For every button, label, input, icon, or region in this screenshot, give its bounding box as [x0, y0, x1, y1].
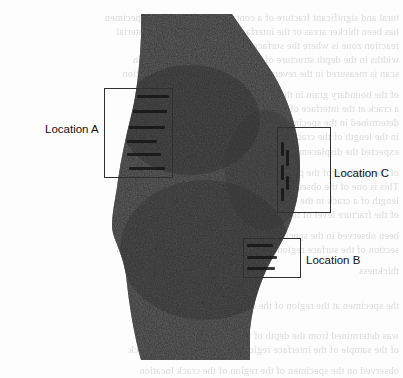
feature-mark: [286, 150, 289, 166]
feature-mark: [247, 256, 277, 259]
callout-box-c: [277, 127, 331, 213]
feature-mark: [129, 167, 165, 170]
figure-page: tural and significant fracture of a cont…: [0, 0, 403, 378]
feature-mark: [133, 110, 167, 113]
specimen-shape-svg: [0, 0, 403, 378]
feature-mark: [247, 267, 275, 270]
feature-mark: [247, 244, 273, 247]
feature-mark: [127, 140, 157, 143]
feature-mark: [129, 126, 165, 129]
callout-label-a: Location A: [45, 124, 99, 136]
feature-mark: [281, 165, 284, 180]
callout-label-b: Location B: [306, 255, 360, 267]
feature-mark: [281, 188, 284, 201]
callout-label-c: Location C: [334, 168, 389, 180]
feature-mark: [137, 95, 169, 98]
feature-mark: [281, 142, 284, 156]
callout-box-a: [104, 88, 173, 178]
feature-mark: [286, 176, 289, 190]
specimen-silhouette: [0, 0, 403, 378]
feature-mark: [127, 153, 161, 156]
